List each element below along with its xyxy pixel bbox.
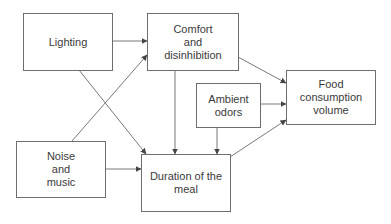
node-noise-music: Noise and music [16, 141, 106, 198]
edge-comfort-food [238, 57, 286, 83]
node-food-consumption: Food consumption volume [286, 70, 376, 125]
node-lighting-label: Lighting [49, 36, 88, 49]
node-noise-label: Noise and music [47, 150, 76, 189]
node-ambient-odors: Ambient odors [196, 83, 261, 128]
node-duration: Duration of the meal [141, 154, 231, 212]
node-comfort-label: Comfort and disinhibition [164, 23, 221, 62]
node-lighting: Lighting [23, 13, 113, 71]
node-odors-label: Ambient odors [208, 93, 248, 119]
node-duration-label: Duration of the meal [150, 170, 222, 196]
node-food-label: Food consumption volume [287, 78, 375, 117]
node-comfort: Comfort and disinhibition [147, 13, 239, 71]
